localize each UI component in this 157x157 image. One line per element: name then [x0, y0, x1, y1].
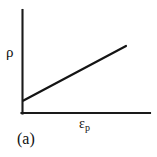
- x-axis-label: εp: [79, 117, 90, 133]
- data-series-line: [24, 46, 127, 101]
- x-axis-label-subscript: p: [85, 122, 90, 133]
- y-axis-label: ρ: [6, 45, 14, 60]
- y-axis-label-text: ρ: [6, 44, 14, 60]
- figure-caption: (a): [17, 131, 35, 147]
- x-axis-label-text: ε: [79, 116, 85, 131]
- figure-panel-a: ρ εp (a): [0, 0, 157, 157]
